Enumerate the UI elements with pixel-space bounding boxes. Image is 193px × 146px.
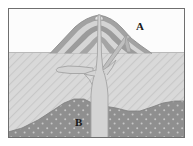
cross-section-illustration — [0, 0, 193, 146]
label-b: B — [75, 117, 82, 128]
label-a: A — [136, 21, 144, 32]
volcano-cross-section-figure: A B — [0, 0, 193, 146]
